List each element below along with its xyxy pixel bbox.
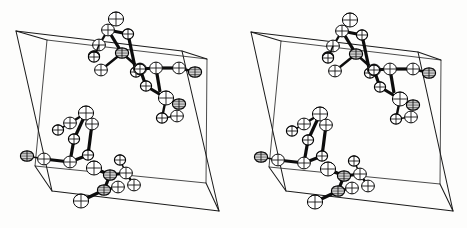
stereo-pair-canvas <box>0 0 467 228</box>
ortep-stereo-figure <box>0 0 467 228</box>
